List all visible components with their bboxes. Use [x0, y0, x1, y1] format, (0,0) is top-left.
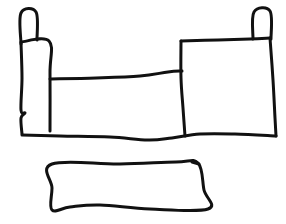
lower-bar-right-tick	[192, 162, 199, 164]
sketch-drawing	[0, 0, 286, 224]
canvas-background	[0, 0, 286, 224]
sketch-canvas	[0, 0, 286, 224]
